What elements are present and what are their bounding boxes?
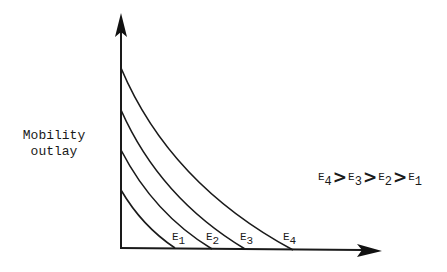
diagram-canvas: Mobility outlay E1 E2 E3 E4 E4>E3>E2>E1 bbox=[0, 0, 447, 272]
relation-term-1-base: E bbox=[318, 171, 325, 183]
curve-e2 bbox=[121, 150, 212, 249]
curve-label-e4-base: E bbox=[283, 231, 290, 243]
y-axis-label-line-2: outlay bbox=[10, 144, 98, 160]
greater-than-icon: > bbox=[393, 167, 407, 187]
x-axis bbox=[120, 248, 362, 250]
curve-label-e1-base: E bbox=[172, 231, 179, 243]
curve-label-e3-base: E bbox=[240, 231, 247, 243]
y-axis-label-line-1: Mobility bbox=[10, 128, 98, 144]
relation-term-1-sub: 4 bbox=[325, 175, 332, 189]
relation-term-2-base: E bbox=[348, 171, 355, 183]
curve-label-e3: E3 bbox=[240, 232, 253, 247]
curve-label-e2-base: E bbox=[206, 231, 213, 243]
curve-label-e2: E2 bbox=[206, 232, 219, 247]
curve-label-e2-sub: 2 bbox=[213, 235, 220, 247]
curve-e1 bbox=[121, 190, 175, 248]
greater-than-icon: > bbox=[363, 167, 377, 187]
ordering-relation: E4>E3>E2>E1 bbox=[318, 167, 422, 189]
curve-label-e4: E4 bbox=[283, 232, 296, 247]
greater-than-icon: > bbox=[333, 167, 347, 187]
relation-term-4-base: E bbox=[408, 171, 415, 183]
curve-label-e3-sub: 3 bbox=[247, 235, 254, 247]
relation-term-3-base: E bbox=[378, 171, 385, 183]
relation-term-4-sub: 1 bbox=[415, 175, 422, 189]
curve-label-e1: E1 bbox=[172, 232, 185, 247]
relation-term-2-sub: 3 bbox=[355, 175, 362, 189]
relation-term-3-sub: 2 bbox=[385, 175, 392, 189]
y-axis-label: Mobility outlay bbox=[10, 128, 98, 160]
curve-label-e1-sub: 1 bbox=[179, 235, 186, 247]
curve-label-e4-sub: 4 bbox=[290, 235, 297, 247]
